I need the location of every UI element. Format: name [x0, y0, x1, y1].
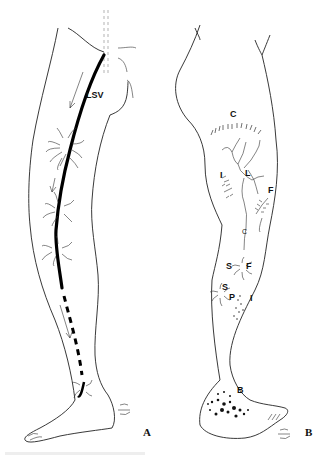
label-i-upper: I [220, 170, 223, 180]
panel-label-a: A [143, 426, 151, 438]
label-f-upper: F [268, 185, 274, 195]
panel-a-leg: LSV A [25, 10, 151, 442]
label-f-lower: F [246, 261, 252, 271]
label-c: C [230, 109, 237, 119]
label-s-lower: S [222, 282, 228, 292]
label-p: P [229, 292, 235, 302]
label-c-small: C [242, 228, 247, 235]
label-l: L [245, 168, 251, 178]
label-i-lower: I [250, 293, 253, 303]
label-lsv: LSV [86, 90, 104, 100]
panel-label-b: B [305, 426, 313, 438]
leg-diagram: LSV A [0, 0, 323, 463]
label-s-upper: S [226, 261, 232, 271]
label-b: B [237, 385, 244, 395]
panel-b-leg: C L I F C S F S P I B B [176, 25, 313, 439]
